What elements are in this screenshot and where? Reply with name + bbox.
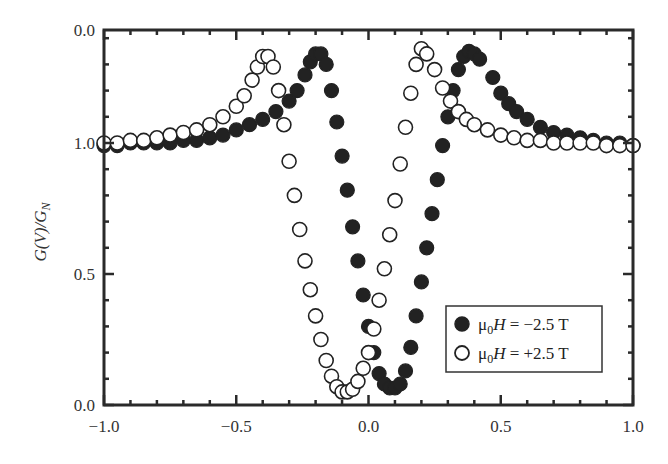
filled-data-point (404, 340, 418, 354)
x-tick-label: 1.0 (622, 417, 643, 436)
filled-data-point (436, 139, 450, 153)
open-data-point (277, 118, 291, 132)
open-data-point (573, 136, 587, 150)
open-data-point (383, 228, 397, 242)
x-tick-label: −0.5 (221, 417, 252, 436)
open-data-point (409, 57, 423, 71)
open-data-point (216, 110, 230, 124)
filled-data-point (356, 288, 370, 302)
open-circle-marker-icon (455, 346, 469, 360)
open-data-point (203, 118, 217, 132)
open-data-point (272, 84, 286, 98)
conductance-chart: −1.0−0.50.00.51.0 0.00.51.00.0 G(V)/GN μ… (0, 0, 668, 464)
filled-data-point (473, 52, 487, 66)
open-data-point (494, 128, 508, 142)
x-tick-label: −1.0 (89, 417, 120, 436)
open-data-point (533, 133, 547, 147)
y-axis-tick-labels: 0.00.51.00.0 (74, 21, 95, 415)
filled-data-point (409, 309, 423, 323)
filled-data-point (520, 112, 534, 126)
filled-data-point (269, 105, 283, 119)
open-data-point (372, 293, 386, 307)
filled-data-point (330, 115, 344, 129)
y-axis-title: G(V)/GN (31, 202, 53, 262)
filled-data-point (351, 254, 365, 268)
open-data-point (377, 262, 391, 276)
filled-data-point (346, 220, 360, 234)
open-data-point (428, 63, 442, 77)
filled-data-point (335, 149, 349, 163)
y-tick-label: 1.0 (74, 134, 95, 153)
open-data-point (600, 139, 614, 153)
filled-data-point (393, 377, 407, 391)
y-tick-label: 0.0 (74, 21, 95, 40)
open-data-point (245, 73, 259, 87)
filled-data-point (216, 128, 230, 142)
open-data-point (298, 254, 312, 268)
open-data-point (481, 123, 495, 137)
filled-data-point (298, 68, 312, 82)
filled-data-point (399, 364, 413, 378)
open-data-point (314, 333, 328, 347)
open-data-point (351, 374, 365, 388)
open-data-point (123, 133, 137, 147)
filled-data-point (243, 118, 257, 132)
filled-data-point (430, 173, 444, 187)
open-data-point (467, 118, 481, 132)
filled-data-point (533, 120, 547, 134)
open-data-point (137, 133, 151, 147)
filled-data-point (229, 123, 243, 137)
filled-data-point (414, 275, 428, 289)
filled-data-point (451, 63, 465, 77)
open-data-point (399, 120, 413, 134)
open-data-point (520, 133, 534, 147)
open-data-point (393, 157, 407, 171)
x-tick-label: 0.0 (358, 417, 379, 436)
open-data-point (586, 136, 600, 150)
open-data-point (266, 60, 280, 74)
open-data-point (190, 123, 204, 137)
open-data-point (303, 283, 317, 297)
open-data-point (613, 139, 627, 153)
open-data-point (237, 89, 251, 103)
open-data-point (287, 188, 301, 202)
x-tick-label: 0.5 (490, 417, 511, 436)
open-data-point (420, 47, 434, 61)
filled-data-point (319, 57, 333, 71)
open-data-point (319, 354, 333, 368)
open-data-point (367, 322, 381, 336)
y-tick-label: 0.5 (74, 265, 95, 284)
legend: μ0H = −2.5 T μ0H = +2.5 T (446, 306, 602, 372)
open-data-point (293, 223, 307, 237)
filled-circle-marker-icon (455, 317, 469, 331)
open-data-point (309, 309, 323, 323)
open-data-point (560, 136, 574, 150)
filled-data-point (486, 71, 500, 85)
filled-data-point (340, 183, 354, 197)
filled-data-point (425, 207, 439, 221)
y-tick-label: 0.0 (74, 396, 95, 415)
open-data-point (282, 154, 296, 168)
filled-data-point (256, 112, 270, 126)
open-data-point (176, 126, 190, 140)
open-data-point (362, 346, 376, 360)
open-data-point (356, 361, 370, 375)
open-data-point (404, 86, 418, 100)
open-data-point (150, 131, 164, 145)
open-data-point (507, 131, 521, 145)
filled-data-point (203, 131, 217, 145)
open-data-point (436, 81, 450, 95)
open-data-point (547, 136, 561, 150)
filled-data-point (325, 84, 339, 98)
filled-data-point (420, 241, 434, 255)
open-data-point (163, 128, 177, 142)
open-data-point (388, 194, 402, 208)
x-axis-tick-labels: −1.0−0.50.00.51.0 (89, 417, 644, 436)
filled-data-point (290, 84, 304, 98)
